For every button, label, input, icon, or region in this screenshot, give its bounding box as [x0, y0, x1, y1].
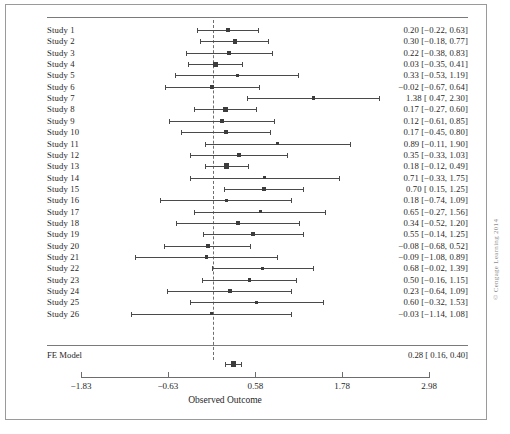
effect-estimate-marker: [224, 163, 230, 169]
study-effect-value: 0.60 [−0.32, 1.53]: [403, 297, 468, 308]
study-effect-value: 0.71 [−0.33, 1.75]: [403, 173, 468, 184]
study-effect-value: 0.35 [−0.33, 1.03]: [403, 150, 468, 161]
summary-marker-group: [0, 359, 510, 367]
study-effect-value: −0.09 [−1.08, 0.89]: [398, 252, 468, 263]
study-effect-value: 0.33 [−0.53, 1.19]: [403, 70, 468, 81]
confidence-interval-cap: [131, 312, 132, 317]
confidence-interval-cap: [194, 210, 195, 215]
study-label: Study 26: [47, 309, 79, 320]
study-label: Study 15: [47, 184, 79, 195]
study-effect-value: 0.70 [ 0.15, 1.25]: [406, 184, 468, 195]
confidence-interval-cap: [186, 51, 187, 56]
effect-estimate-marker: [225, 199, 228, 202]
confidence-interval-cap: [291, 312, 292, 317]
study-row: Study 6−0.02 [−0.67, 0.64]: [0, 82, 510, 93]
x-axis-tick-label: 2.98: [421, 381, 437, 391]
effect-estimate-marker: [223, 107, 228, 112]
confidence-interval-cap: [323, 300, 324, 305]
study-effect-value: 0.89 [−0.11, 1.90]: [404, 139, 468, 150]
confidence-interval-cap: [197, 28, 198, 33]
confidence-interval-cap: [268, 39, 269, 44]
effect-estimate-marker: [233, 39, 237, 43]
study-label: Study 7: [47, 93, 75, 104]
confidence-interval-cap: [296, 278, 297, 283]
header-rule: [47, 17, 468, 18]
study-label: Study 4: [47, 59, 75, 70]
study-row: Study 110.89 [−0.11, 1.90]: [0, 139, 510, 150]
x-axis-tick-label: 0.58: [247, 381, 263, 391]
x-axis-tick-label: −1.83: [71, 381, 92, 391]
confidence-interval-cap: [212, 266, 213, 271]
effect-estimate-marker: [236, 74, 239, 77]
study-row: Study 20.30 [−0.18, 0.77]: [0, 36, 510, 47]
confidence-interval-cap: [303, 187, 304, 192]
x-axis-tick: [255, 372, 256, 378]
effect-estimate-marker: [213, 62, 218, 67]
confidence-interval-cap: [256, 107, 257, 112]
x-axis-tick: [81, 372, 82, 378]
study-effect-value: 1.38 [ 0.47, 2.30]: [406, 93, 468, 104]
confidence-interval-cap: [181, 130, 182, 135]
effect-estimate-marker: [276, 142, 279, 145]
confidence-interval-cap: [299, 221, 300, 226]
x-axis-tick-label: −0.63: [157, 381, 178, 391]
x-axis-tick: [429, 372, 430, 378]
confidence-interval-cap: [259, 85, 260, 90]
study-label: Study 17: [47, 207, 79, 218]
effect-estimate-marker: [210, 312, 213, 315]
study-label: Study 22: [47, 263, 79, 274]
confidence-interval-cap: [291, 198, 292, 203]
effect-estimate-marker: [228, 289, 231, 292]
confidence-interval-cap: [270, 130, 271, 135]
study-effect-value: 0.18 [−0.12, 0.49]: [403, 161, 468, 172]
confidence-interval-cap: [160, 198, 161, 203]
study-label: Study 13: [47, 161, 79, 172]
study-label: Study 21: [47, 252, 79, 263]
study-label: Study 1: [47, 25, 75, 36]
confidence-interval-cap: [167, 289, 168, 294]
study-label: Study 3: [47, 48, 75, 59]
study-effect-value: 0.55 [−0.14, 1.25]: [403, 229, 468, 240]
study-effect-value: 0.68 [−0.02, 1.39]: [403, 263, 468, 274]
summary-rule: [47, 345, 468, 346]
effect-estimate-marker: [227, 51, 231, 55]
study-row: Study 230.50 [−0.16, 1.15]: [0, 275, 510, 286]
study-label: Study 10: [47, 127, 79, 138]
confidence-interval-cap: [298, 73, 299, 78]
confidence-interval-cap: [164, 244, 165, 249]
study-label: Study 2: [47, 36, 75, 47]
study-row: Study 26−0.03 [−1.14, 1.08]: [0, 309, 510, 320]
study-row: Study 250.60 [−0.32, 1.53]: [0, 297, 510, 308]
effect-estimate-marker: [210, 85, 214, 89]
study-row: Study 20−0.08 [−0.68, 0.52]: [0, 241, 510, 252]
study-label: Study 8: [47, 104, 75, 115]
study-row: Study 21−0.09 [−1.08, 0.89]: [0, 252, 510, 263]
study-row: Study 180.34 [−0.52, 1.20]: [0, 218, 510, 229]
study-effect-value: 0.23 [−0.64, 1.09]: [403, 286, 468, 297]
study-label: Study 18: [47, 218, 79, 229]
study-effect-value: 0.30 [−0.18, 0.77]: [403, 36, 468, 47]
study-row: Study 130.18 [−0.12, 0.49]: [0, 161, 510, 172]
effect-estimate-marker: [251, 232, 255, 236]
study-row: Study 170.65 [−0.27, 1.56]: [0, 207, 510, 218]
study-label: Study 25: [47, 297, 79, 308]
effect-estimate-marker: [248, 278, 252, 282]
confidence-interval-cap: [200, 39, 201, 44]
confidence-interval-cap: [272, 51, 273, 56]
study-row: Study 100.17 [−0.45, 0.80]: [0, 127, 510, 138]
confidence-interval-cap: [325, 210, 326, 215]
confidence-interval-cap: [203, 232, 204, 237]
effect-estimate-marker: [206, 244, 210, 248]
confidence-interval-cap: [135, 255, 136, 260]
confidence-interval-cap: [242, 62, 243, 67]
effect-estimate-marker: [237, 153, 241, 157]
study-effect-value: 0.34 [−0.52, 1.20]: [403, 218, 468, 229]
study-row: Study 71.38 [ 0.47, 2.30]: [0, 93, 510, 104]
study-effect-value: 0.17 [−0.27, 0.60]: [403, 104, 468, 115]
x-axis-tick: [168, 372, 169, 378]
study-row: Study 150.70 [ 0.15, 1.25]: [0, 184, 510, 195]
study-label: Study 23: [47, 275, 79, 286]
study-label: Study 16: [47, 195, 79, 206]
x-axis-tick-label: 1.78: [334, 381, 350, 391]
effect-estimate-marker: [205, 255, 208, 258]
